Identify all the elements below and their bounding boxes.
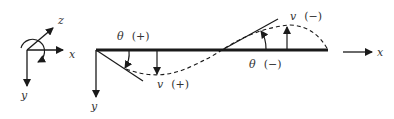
theta-positive-label: θ (+) [117,26,149,43]
triad-x-label: x [69,48,76,61]
beam-assembly: y x θ (+) v (+) θ (−) v (−) [90,6,384,113]
tangent-line-right [222,19,278,50]
triad-z-label: z [57,14,64,27]
v-negative-label: v (−) [290,6,322,23]
coordinate-triad: x y z [20,14,76,102]
v-positive-label: v (+) [157,74,189,91]
theta-negative-arrow [261,31,266,49]
triad-y-label: y [20,89,28,102]
beam-y-label: y [90,100,98,113]
theta-positive-arrow [125,51,129,68]
rotation-arc-icon [21,39,45,62]
theta-negative-label: θ (−) [249,54,281,71]
beam-sign-convention-diagram: x y z y x θ (+) v (+) θ (−) [0,0,394,119]
beam-x-label: x [377,46,384,59]
tangent-line-left [96,50,143,81]
